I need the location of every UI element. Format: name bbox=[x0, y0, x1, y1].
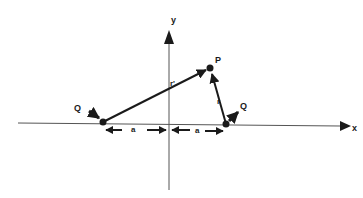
y-axis-label: y bbox=[171, 16, 176, 25]
q-left-pointer-icon bbox=[89, 111, 99, 118]
charge-q-right bbox=[223, 121, 230, 128]
x-axis-arrow-icon bbox=[340, 121, 351, 131]
charge-q-left bbox=[100, 119, 107, 126]
point-p-label: P bbox=[215, 56, 221, 65]
charge-q-left-label: Q bbox=[74, 104, 81, 113]
x-axis-label: x bbox=[352, 124, 357, 133]
y-axis-arrow-icon bbox=[164, 30, 174, 44]
r-label: r bbox=[217, 98, 220, 106]
distance-a-right-label: a bbox=[195, 127, 199, 135]
distance-a-left-label: a bbox=[131, 126, 135, 134]
point-p bbox=[207, 65, 214, 72]
q-right-pointer-icon bbox=[229, 112, 238, 121]
y-axis bbox=[164, 30, 174, 190]
charge-diagram bbox=[0, 0, 363, 198]
r-prime-vector bbox=[103, 70, 206, 122]
r-prime-label: r' bbox=[170, 80, 175, 88]
charge-q-right-label: Q bbox=[240, 102, 247, 111]
